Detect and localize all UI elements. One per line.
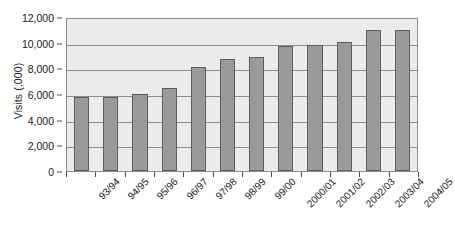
y-axis-tick-mark bbox=[57, 172, 62, 173]
bar-slot bbox=[330, 19, 359, 171]
bar-series bbox=[67, 19, 417, 171]
x-axis-tick-label: 2001/02 bbox=[334, 176, 367, 209]
bar bbox=[366, 30, 381, 171]
y-axis-tick-mark bbox=[57, 43, 62, 44]
x-axis-tick-label: 2004/05 bbox=[422, 176, 455, 209]
bar bbox=[132, 94, 147, 171]
plot-area bbox=[66, 18, 418, 172]
y-axis-tick-label: 8,000 bbox=[28, 63, 54, 75]
bar bbox=[220, 59, 235, 171]
bar bbox=[249, 57, 264, 171]
y-axis-tick-mark bbox=[57, 120, 62, 121]
bar-slot bbox=[300, 19, 329, 171]
bar bbox=[307, 45, 322, 171]
bar bbox=[395, 30, 410, 171]
y-axis-tick-label: 0 bbox=[48, 166, 54, 178]
bar-slot bbox=[125, 19, 154, 171]
x-axis-tick-label: 96/97 bbox=[184, 176, 209, 201]
bar-slot bbox=[213, 19, 242, 171]
bar-slot bbox=[67, 19, 96, 171]
y-axis-tick-labels: 02,0004,0006,0008,00010,00012,000 bbox=[0, 0, 62, 190]
x-axis-tick-label: 93/94 bbox=[96, 176, 121, 201]
bar bbox=[191, 67, 206, 171]
bar-slot bbox=[184, 19, 213, 171]
x-axis-tick-label: 98/99 bbox=[243, 176, 268, 201]
y-axis-tick-mark bbox=[57, 18, 62, 19]
y-axis-tick-mark bbox=[57, 95, 62, 96]
x-axis-tick-label: 99/00 bbox=[272, 176, 297, 201]
y-axis-tick-label: 12,000 bbox=[22, 12, 54, 24]
y-axis-tick-mark bbox=[57, 146, 62, 147]
bar-slot bbox=[388, 19, 417, 171]
y-axis-tick-label: 4,000 bbox=[28, 115, 54, 127]
bar-slot bbox=[271, 19, 300, 171]
bar bbox=[337, 42, 352, 171]
bar-slot bbox=[359, 19, 388, 171]
x-axis-tick-label: 2000/01 bbox=[305, 176, 338, 209]
bar-slot bbox=[242, 19, 271, 171]
bar-slot bbox=[155, 19, 184, 171]
y-axis-tick-label: 10,000 bbox=[22, 38, 54, 50]
x-axis-tick-label: 2002/03 bbox=[363, 176, 396, 209]
bar bbox=[74, 97, 89, 171]
bar-slot bbox=[96, 19, 125, 171]
x-axis-tick-label: 2003/04 bbox=[393, 176, 426, 209]
y-axis-tick-mark bbox=[57, 69, 62, 70]
x-axis-tick-label: 95/96 bbox=[155, 176, 180, 201]
bar bbox=[103, 97, 118, 171]
x-axis-tick-label: 97/98 bbox=[213, 176, 238, 201]
y-axis-tick-label: 2,000 bbox=[28, 140, 54, 152]
x-axis-tick-labels: 93/9494/9595/9696/9797/9898/9999/002000/… bbox=[66, 176, 418, 228]
bar bbox=[162, 88, 177, 171]
bar bbox=[278, 46, 293, 171]
y-axis-tick-label: 6,000 bbox=[28, 89, 54, 101]
x-axis-tick-label: 94/95 bbox=[125, 176, 150, 201]
